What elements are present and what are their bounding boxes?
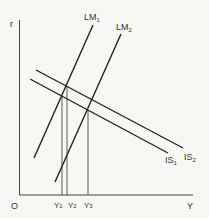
y-axis-label: Y [187, 201, 193, 211]
r-axis-label: r [10, 19, 13, 29]
y3-tick-label: Y3 [84, 201, 93, 210]
is-lm-diagram: r O Y LM1 LM2 IS1 IS2 Y1 Y2 Y3 [0, 0, 209, 218]
origin-label: O [11, 201, 18, 211]
is2-curve [36, 70, 183, 148]
lm2-label: LM2 [116, 22, 133, 33]
is2-label: IS2 [184, 152, 197, 163]
is1-label: IS1 [165, 155, 178, 166]
is1-curve [30, 79, 168, 153]
y2-tick-label: Y2 [68, 201, 77, 210]
lm1-label: LM1 [84, 12, 101, 23]
y1-tick-label: Y1 [54, 201, 63, 210]
lm1-curve [34, 25, 93, 158]
